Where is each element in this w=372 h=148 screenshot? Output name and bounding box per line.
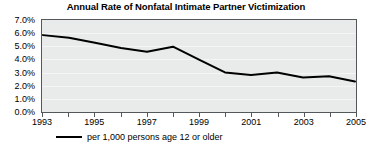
y-tick-label: 6.0% bbox=[14, 29, 35, 38]
x-tick-label: 2003 bbox=[294, 117, 314, 128]
x-tick-label: 1997 bbox=[137, 117, 157, 128]
y-tick-label: 1.0% bbox=[14, 94, 35, 103]
x-tick-label: 1993 bbox=[32, 117, 52, 128]
y-tick-label: 3.0% bbox=[14, 68, 35, 77]
series-line-chart bbox=[42, 20, 356, 112]
x-tick-label: 2001 bbox=[241, 117, 261, 128]
y-tick-label: 0.0% bbox=[14, 108, 35, 117]
y-tick-label: 2.0% bbox=[14, 81, 35, 90]
series-line bbox=[43, 35, 355, 81]
x-tick-label: 2005 bbox=[346, 117, 366, 128]
legend-line-swatch bbox=[56, 136, 82, 138]
chart-legend: per 1,000 persons age 12 or older bbox=[56, 131, 223, 143]
chart-figure: Annual Rate of Nonfatal Intimate Partner… bbox=[0, 0, 372, 148]
x-tick-label: 1995 bbox=[84, 117, 104, 128]
x-axis: 1993199519971999200120032005 bbox=[41, 117, 357, 129]
legend-entry-label: per 1,000 persons age 12 or older bbox=[87, 132, 223, 143]
plot-area bbox=[41, 19, 357, 113]
y-tick-label: 5.0% bbox=[14, 42, 35, 51]
chart-title: Annual Rate of Nonfatal Intimate Partner… bbox=[0, 1, 372, 13]
x-tick-label: 1999 bbox=[189, 117, 209, 128]
y-tick-label: 4.0% bbox=[14, 55, 35, 64]
y-tick-label: 7.0% bbox=[14, 16, 35, 25]
y-axis: 7.0%6.0%5.0%4.0%3.0%2.0%1.0%0.0% bbox=[0, 19, 38, 113]
